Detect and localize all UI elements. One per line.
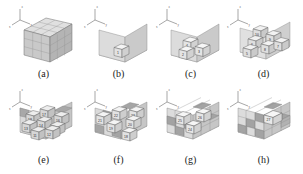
panel-b-artwork: z y x 1 bbox=[81, 2, 156, 72]
svg-text:z: z bbox=[22, 88, 24, 92]
cube-number: 11 bbox=[33, 134, 37, 138]
panel-d-label: (d) bbox=[226, 68, 301, 79]
cube-number: 3 bbox=[198, 50, 200, 54]
axis-indicator-e: z y x bbox=[9, 88, 33, 111]
svg-text:x: x bbox=[9, 107, 11, 111]
axis-indicator-a: z y x bbox=[9, 5, 33, 29]
svg-text:y: y bbox=[31, 105, 33, 109]
panel-f-label: (f) bbox=[81, 154, 156, 165]
svg-text:x: x bbox=[156, 25, 158, 29]
svg-text:z: z bbox=[97, 5, 99, 9]
panel-d-artwork: z y x 10 bbox=[226, 2, 301, 72]
figure-panel-e: z y x 18 bbox=[6, 88, 81, 174]
panel-c-label: (c) bbox=[153, 68, 228, 79]
cube-number: 18 bbox=[124, 135, 128, 139]
svg-text:y: y bbox=[106, 23, 108, 27]
cube-number: 25 bbox=[178, 119, 182, 123]
cube-number: 8 bbox=[264, 48, 266, 52]
figure-panel-g: z y x bbox=[153, 88, 228, 174]
figure-panel-grid: z y x bbox=[0, 0, 303, 174]
svg-text:z: z bbox=[240, 88, 242, 92]
panel-e-artwork: z y x 18 bbox=[6, 88, 81, 158]
svg-text:x: x bbox=[227, 25, 229, 29]
svg-text:y: y bbox=[249, 23, 251, 27]
panel-c-artwork: z y x 4 bbox=[153, 2, 228, 72]
svg-text:z: z bbox=[240, 5, 242, 9]
axis-indicator-d: z y x bbox=[227, 5, 251, 29]
panel-b-label: (b) bbox=[81, 68, 156, 79]
panel-e-label: (e) bbox=[6, 154, 81, 165]
svg-text:x: x bbox=[9, 25, 11, 29]
cube-number: 1 bbox=[117, 51, 119, 55]
axis-indicator-h: z y x bbox=[227, 88, 251, 111]
cube-number: 24 bbox=[188, 128, 192, 132]
cube-number: 20 bbox=[128, 123, 132, 127]
cube-number: 26 bbox=[198, 116, 202, 120]
cube-number: 22 bbox=[114, 114, 118, 118]
cube-number: 5 bbox=[246, 52, 248, 56]
figure-panel-b: z y x 1 (b) bbox=[81, 2, 156, 89]
cube-number: 19 bbox=[109, 127, 113, 131]
cube-number: 2 bbox=[182, 53, 184, 57]
cube-number: 21 bbox=[98, 119, 102, 123]
svg-text:x: x bbox=[84, 107, 86, 111]
axis-indicator-b: z y x bbox=[84, 5, 108, 29]
svg-text:z: z bbox=[169, 88, 171, 92]
panel-g-artwork: z y x bbox=[153, 88, 228, 158]
figure-panel-d: z y x 10 bbox=[226, 2, 301, 89]
cube-number: 13 bbox=[24, 127, 28, 131]
figure-panel-h: z y x bbox=[226, 88, 301, 174]
axis-indicator-f: z y x bbox=[84, 88, 108, 111]
cube-number: 7 bbox=[277, 45, 279, 49]
cube-number: 12 bbox=[47, 133, 51, 137]
svg-text:y: y bbox=[178, 23, 180, 27]
svg-text:z: z bbox=[97, 88, 99, 92]
figure-panel-f: z y x 21 bbox=[81, 88, 156, 174]
svg-text:x: x bbox=[84, 25, 86, 29]
figure-panel-c: z y x 4 bbox=[153, 2, 228, 89]
cube-number: 27 bbox=[267, 118, 271, 122]
panel-h-label: (h) bbox=[226, 154, 301, 165]
axis-indicator-g: z y x bbox=[156, 88, 180, 111]
svg-text:x: x bbox=[156, 107, 158, 111]
panel-h-artwork: z y x bbox=[226, 88, 301, 158]
svg-text:y: y bbox=[106, 105, 108, 109]
svg-text:z: z bbox=[22, 5, 24, 9]
panel-f-artwork: z y x 21 bbox=[81, 88, 156, 158]
panel-a-artwork: z y x bbox=[6, 2, 81, 72]
panel-g-label: (g) bbox=[153, 154, 228, 165]
panel-a-label: (a) bbox=[6, 68, 81, 79]
svg-text:x: x bbox=[227, 107, 229, 111]
axis-indicator-c: z y x bbox=[156, 5, 180, 29]
figure-panel-a: z y x bbox=[6, 2, 81, 89]
svg-text:z: z bbox=[169, 5, 171, 9]
